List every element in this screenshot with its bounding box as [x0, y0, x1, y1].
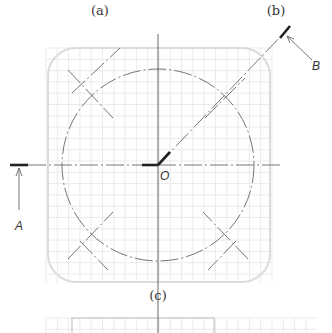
x-mark-bottom-right: [203, 212, 248, 270]
section-a-arrow: [16, 168, 22, 210]
x-mark-top-left: [68, 48, 120, 118]
technical-drawing: (a) (b) (c) O A B: [0, 0, 332, 333]
x-mark-bottom-left: [68, 212, 113, 270]
section-label-b: B: [312, 59, 320, 73]
grid-bottom: [46, 318, 316, 333]
x-mark-top-right: [205, 78, 245, 118]
diagonal-section-line: [158, 33, 284, 165]
section-center-diagonal-mark: [158, 152, 170, 165]
center-label-o: O: [160, 169, 169, 183]
panel-label-c: (c): [149, 288, 166, 303]
section-b-arrow: [287, 36, 312, 60]
panel-label-a: (a): [91, 3, 109, 18]
panel-label-b: (b): [267, 3, 285, 18]
section-label-a: A: [14, 219, 23, 233]
